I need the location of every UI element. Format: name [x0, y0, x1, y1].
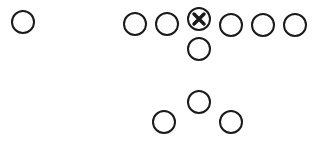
player-node-line-2 [156, 13, 178, 35]
player-node-line-5 [252, 14, 274, 36]
player-node-back-left [153, 111, 175, 133]
circle-icon [284, 14, 306, 36]
player-node-line-6 [284, 14, 306, 36]
circle-icon [252, 14, 274, 36]
player-node-center [188, 8, 210, 30]
circle-icon [220, 14, 242, 36]
circle-icon [220, 111, 242, 133]
player-node-line-1 [124, 13, 146, 35]
circle-icon [153, 111, 175, 133]
circle-icon [156, 13, 178, 35]
player-node-back-right [220, 111, 242, 133]
player-node-quarterback [188, 38, 210, 60]
formation-diagram [0, 0, 317, 144]
player-node-lone-player [12, 11, 34, 33]
player-node-line-4 [220, 14, 242, 36]
circle-icon [124, 13, 146, 35]
x-mark-icon [194, 14, 204, 24]
circle-icon [12, 11, 34, 33]
player-node-back-top [188, 91, 210, 113]
circle-icon [188, 38, 210, 60]
circle-icon [188, 91, 210, 113]
